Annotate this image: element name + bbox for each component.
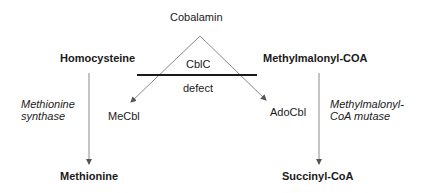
adocbl-label: AdoCbl bbox=[270, 106, 306, 119]
methylmalonyl-coa-mutase-label-line2: CoA mutase bbox=[330, 110, 390, 123]
pathway-arrows bbox=[0, 0, 429, 193]
mecbl-label: MeCbl bbox=[108, 110, 140, 123]
methylmalonyl-coa-label: Methylmalonyl-COA bbox=[263, 52, 368, 65]
cobalamin-label: Cobalamin bbox=[170, 11, 223, 24]
methionine-label: Methionine bbox=[60, 170, 118, 183]
methionine-synthase-label-line2: synthase bbox=[21, 110, 65, 123]
cblc-label: CblC bbox=[186, 58, 210, 71]
homocysteine-label: Homocysteine bbox=[60, 52, 135, 65]
succinyl-coa-label: Succinyl-CoA bbox=[282, 170, 354, 183]
defect-label: defect bbox=[183, 82, 213, 95]
